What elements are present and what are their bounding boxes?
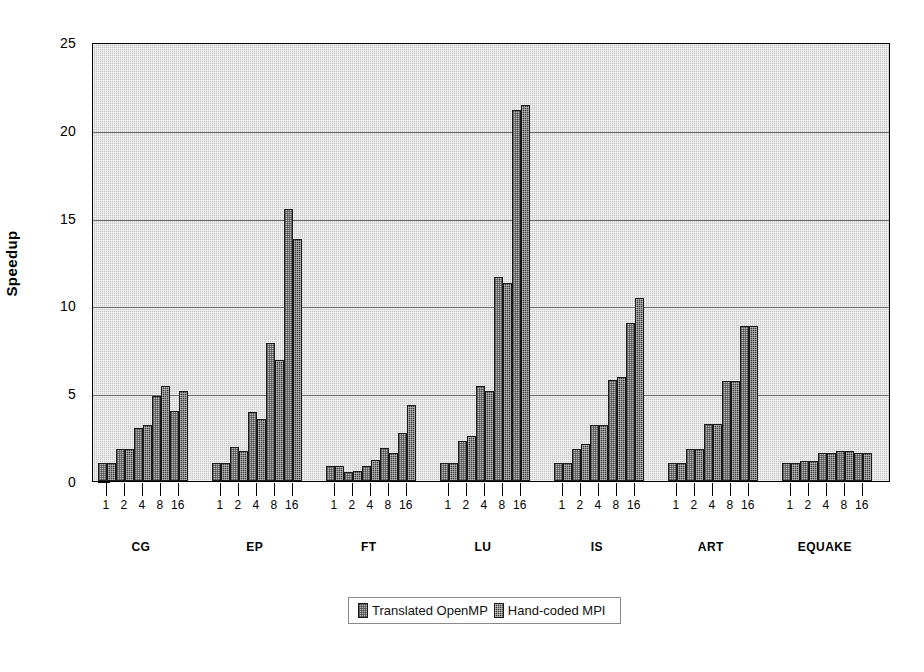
bar-ft-16-series1 [407, 405, 416, 481]
x-axis-tick [580, 483, 581, 496]
bar-equake-1-series0 [782, 463, 791, 481]
bar-equake-8-series1 [845, 451, 854, 481]
x-axis-tick [790, 483, 791, 496]
bar-is-4-series1 [599, 425, 608, 481]
x-axis-tick [106, 483, 107, 496]
bar-ep-4-series1 [257, 419, 266, 481]
x-axis-tick [616, 483, 617, 496]
x-axis-tick [694, 483, 695, 496]
x-axis-tick [160, 483, 161, 496]
x-axis-tick [448, 483, 449, 496]
bar-cg-2-series1 [125, 449, 134, 481]
x-axis-tick [598, 483, 599, 496]
bar-equake-16-series0 [854, 453, 863, 481]
x-axis-tick [826, 483, 827, 496]
bar-art-2-series1 [695, 449, 704, 481]
group-label-equake: EQUAKE [798, 540, 852, 554]
x-axis-tick-label: 1 [103, 498, 110, 512]
x-axis-tick [562, 483, 563, 496]
y-axis-tick-label: 5 [30, 386, 76, 402]
bar-lu-8-series0 [494, 277, 503, 481]
x-axis-tick [220, 483, 221, 496]
bar-art-8-series1 [731, 381, 740, 481]
bar-is-4-series0 [590, 425, 599, 481]
group-label-cg: CG [131, 540, 150, 554]
x-axis-tick-label: 2 [348, 498, 355, 512]
x-axis-tick-label: 2 [120, 498, 127, 512]
bar-ep-8-series0 [266, 343, 275, 481]
x-axis-tick [178, 483, 179, 496]
legend-label-hand-coded-mpi: Hand-coded MPI [508, 603, 606, 618]
x-axis-tick-label: 1 [559, 498, 566, 512]
bar-ep-8-series1 [275, 360, 284, 481]
bar-lu-8-series1 [503, 283, 512, 481]
bar-art-1-series0 [668, 463, 677, 481]
x-axis-tick [124, 483, 125, 496]
bar-equake-2-series0 [800, 461, 809, 481]
bar-ft-8-series0 [380, 448, 389, 481]
bar-lu-1-series1 [449, 463, 458, 481]
bar-art-4-series1 [713, 424, 722, 481]
y-axis-tick-label: 20 [30, 123, 76, 139]
x-axis-tick-label: 4 [366, 498, 373, 512]
group-label-lu: LU [474, 540, 491, 554]
x-axis-tick-label: 1 [787, 498, 794, 512]
group-label-is: IS [591, 540, 603, 554]
bar-is-16-series1 [635, 298, 644, 481]
x-axis-tick-label: 2 [690, 498, 697, 512]
bar-is-8-series0 [608, 380, 617, 481]
bar-lu-16-series1 [521, 105, 530, 481]
bar-ft-1-series0 [326, 466, 335, 481]
bar-is-8-series1 [617, 377, 626, 481]
bar-lu-2-series1 [467, 436, 476, 481]
y-axis-tick-label: 15 [30, 211, 76, 227]
y-axis-tick-label: 25 [30, 35, 76, 51]
bar-lu-1-series0 [440, 463, 449, 481]
speedup-bar-chart-figure: 0510152025 Speedup 124816124816124816124… [0, 0, 924, 672]
bar-ft-1-series1 [335, 466, 344, 481]
bar-is-1-series0 [554, 463, 563, 481]
x-axis-tick [712, 483, 713, 496]
x-axis-ticks [92, 483, 890, 497]
x-axis-tick-label: 8 [840, 498, 847, 512]
x-axis-tick-label: 2 [804, 498, 811, 512]
x-axis-tick-label: 4 [708, 498, 715, 512]
x-axis-tick [520, 483, 521, 496]
gridline [93, 132, 889, 133]
bar-is-1-series1 [563, 463, 572, 481]
x-axis-tick [238, 483, 239, 496]
bar-ft-4-series1 [371, 460, 380, 481]
x-axis-tick [862, 483, 863, 496]
bar-ep-1-series1 [221, 463, 230, 481]
bar-cg-4-series1 [143, 425, 152, 481]
x-axis-tick-label: 16 [855, 498, 868, 512]
x-axis-tick [748, 483, 749, 496]
y-axis-labels: 0510152025 [20, 0, 76, 672]
gridline [93, 307, 889, 308]
bar-art-1-series1 [677, 463, 686, 481]
x-axis-tick [388, 483, 389, 496]
chart-legend: Translated OpenMP Hand-coded MPI [348, 597, 621, 624]
benchmark-group-labels: CGEPFTLUISARTEQUAKE [92, 540, 890, 560]
bar-cg-8-series0 [152, 396, 161, 481]
bar-ep-2-series1 [239, 451, 248, 481]
bar-ft-16-series0 [398, 433, 407, 481]
bar-is-2-series0 [572, 449, 581, 481]
x-axis-tick-label: 1 [445, 498, 452, 512]
x-axis-tick-label: 2 [234, 498, 241, 512]
x-axis-tick [292, 483, 293, 496]
bar-lu-4-series0 [476, 386, 485, 481]
y-axis-tick-label: 10 [30, 298, 76, 314]
y-axis-tick-label: 0 [30, 474, 76, 490]
bar-ft-4-series0 [362, 466, 371, 481]
x-axis-tick [406, 483, 407, 496]
x-axis-tick-label: 8 [384, 498, 391, 512]
x-axis-tick-label: 8 [270, 498, 277, 512]
bar-equake-4-series1 [827, 453, 836, 481]
x-axis-tick [844, 483, 845, 496]
x-axis-tick [142, 483, 143, 496]
bar-art-16-series1 [749, 326, 758, 481]
bar-cg-1-series1 [107, 463, 116, 481]
x-axis-tick-label: 16 [399, 498, 412, 512]
x-axis-tick [634, 483, 635, 496]
